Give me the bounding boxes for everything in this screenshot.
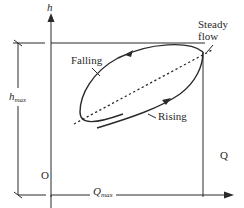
qmax-label-sub: max: [101, 191, 113, 199]
qmax-dimension-svg: [0, 0, 244, 208]
qmax-label: Qmax: [90, 186, 116, 199]
qmax-label-base: Q: [93, 185, 101, 197]
hysteresis-diagram: h Q O Falling Rising Steady flow hmax Qm…: [0, 0, 244, 208]
